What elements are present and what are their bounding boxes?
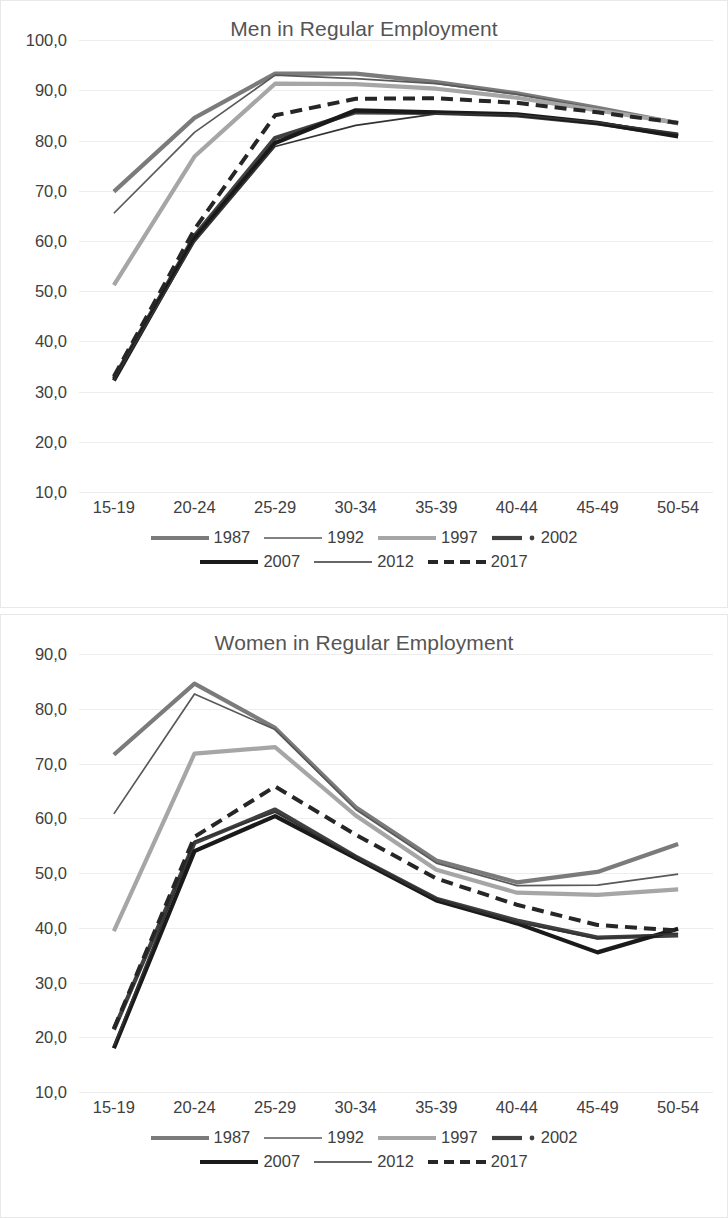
legend-label: 2007 (263, 1152, 300, 1171)
plot-wrapper-women: 10,020,030,040,050,060,070,080,090,0 (1, 654, 727, 1092)
y-axis-tick-label: 80,0 (35, 699, 67, 718)
x-axis-tick-label: 35-39 (415, 498, 457, 517)
series-line-1987 (114, 684, 678, 883)
legend-item-2012[interactable]: 2012 (314, 1152, 414, 1171)
legend-swatch-icon (151, 1130, 209, 1146)
y-axis-tick-label: 50,0 (35, 864, 67, 883)
x-axis-tick-label: 25-29 (254, 498, 296, 517)
x-axis-tick-label: 20-24 (173, 498, 215, 517)
legend-item-1992[interactable]: 1992 (264, 1128, 364, 1147)
legend-label: 2017 (491, 552, 528, 571)
x-axis-tick-label: 50-54 (657, 1098, 699, 1117)
legend-item-2007[interactable]: 2007 (200, 552, 300, 571)
x-axis-tick-label: 45-49 (576, 498, 618, 517)
legend-label: 2002 (541, 1128, 578, 1147)
legend-label: 2012 (377, 552, 414, 571)
x-axis-tick-label: 15-19 (93, 498, 135, 517)
legend-swatch-icon (264, 1130, 322, 1146)
y-axis-tick-label: 30,0 (35, 382, 67, 401)
legend-label: 1997 (441, 1128, 478, 1147)
x-axis-tick-label: 30-34 (335, 498, 377, 517)
y-axis-tick-label: 70,0 (35, 754, 67, 773)
y-axis-tick-label: 20,0 (35, 1028, 67, 1047)
y-axis-tick-label: 100,0 (26, 31, 67, 50)
y-axis-tick-label: 40,0 (35, 918, 67, 937)
legend-item-2017[interactable]: 2017 (428, 552, 528, 571)
legend-item-1997[interactable]: 1997 (378, 528, 478, 547)
y-axis-tick-label: 60,0 (35, 809, 67, 828)
series-line-2017 (114, 787, 678, 1029)
legend-swatch-icon (314, 554, 372, 570)
legend-swatch-icon (428, 1154, 486, 1170)
legend-item-2017[interactable]: 2017 (428, 1152, 528, 1171)
legend-row: 1987199219972002 (144, 1128, 585, 1147)
x-axis-tick-label: 15-19 (93, 1098, 135, 1117)
legend-label: 2012 (377, 1152, 414, 1171)
y-axis-tick-label: 20,0 (35, 432, 67, 451)
y-axis-women: 10,020,030,040,050,060,070,080,090,0 (1, 654, 75, 1092)
legend-swatch-icon (378, 530, 436, 546)
legend-label: 1987 (214, 528, 251, 547)
legend-item-2012[interactable]: 2012 (314, 552, 414, 571)
legend-item-2002[interactable]: 2002 (492, 528, 578, 547)
legend-men: 1987199219972002200720122017 (1, 528, 727, 571)
legend-item-1992[interactable]: 1992 (264, 528, 364, 547)
x-axis-women: 15-1920-2425-2930-3435-3940-4445-4950-54 (79, 1092, 713, 1126)
legend-swatch-icon (151, 530, 209, 546)
y-axis-tick-label: 60,0 (35, 231, 67, 250)
legend-swatch-icon (200, 1154, 258, 1170)
y-axis-men: 10,020,030,040,050,060,070,080,090,0100,… (1, 40, 75, 492)
y-axis-tick-label: 10,0 (35, 1083, 67, 1102)
legend-label: 1987 (214, 1128, 251, 1147)
legend-swatch-icon (428, 554, 486, 570)
x-axis-tick-label: 25-29 (254, 1098, 296, 1117)
legend-item-2002[interactable]: 2002 (492, 1128, 578, 1147)
legend-swatch-icon (492, 1130, 536, 1146)
legend-swatch-icon (200, 554, 258, 570)
x-axis-tick-label: 40-44 (496, 1098, 538, 1117)
legend-item-1987[interactable]: 1987 (151, 528, 251, 547)
y-axis-tick-label: 90,0 (35, 81, 67, 100)
legend-item-1997[interactable]: 1997 (378, 1128, 478, 1147)
x-axis-tick-label: 20-24 (173, 1098, 215, 1117)
y-axis-tick-label: 40,0 (35, 332, 67, 351)
legend-swatch-icon (314, 1154, 372, 1170)
legend-swatch-icon (264, 530, 322, 546)
x-axis-tick-label: 40-44 (496, 498, 538, 517)
legend-label: 2017 (491, 1152, 528, 1171)
x-axis-men: 15-1920-2425-2930-3435-3940-4445-4950-54 (79, 492, 713, 526)
legend-row: 200720122017 (193, 1152, 534, 1171)
legend-swatch-icon (378, 1130, 436, 1146)
line-series-men (79, 40, 713, 492)
x-axis-tick-label: 30-34 (335, 1098, 377, 1117)
series-line-2007 (114, 816, 678, 1048)
legend-label: 1992 (327, 1128, 364, 1147)
x-axis-tick-label: 45-49 (576, 1098, 618, 1117)
plot-area-men (79, 40, 713, 492)
legend-label: 2007 (263, 552, 300, 571)
legend-label: 1992 (327, 528, 364, 547)
chart-title-men: Men in Regular Employment (1, 1, 727, 40)
legend-row: 200720122017 (193, 552, 534, 571)
legend-row: 1987199219972002 (144, 528, 585, 547)
plot-wrapper-men: 10,020,030,040,050,060,070,080,090,0100,… (1, 40, 727, 492)
chart-title-women: Women in Regular Employment (1, 615, 727, 654)
y-axis-tick-label: 50,0 (35, 282, 67, 301)
y-axis-tick-label: 70,0 (35, 181, 67, 200)
y-axis-tick-label: 30,0 (35, 973, 67, 992)
plot-area-women (79, 654, 713, 1092)
legend-women: 1987199219972002200720122017 (1, 1128, 727, 1171)
series-line-1992 (114, 75, 678, 213)
y-axis-tick-label: 90,0 (35, 645, 67, 664)
legend-item-1987[interactable]: 1987 (151, 1128, 251, 1147)
legend-label: 2002 (541, 528, 578, 547)
line-series-women (79, 654, 713, 1092)
series-line-1987 (114, 74, 678, 192)
y-axis-tick-label: 10,0 (35, 483, 67, 502)
x-axis-tick-label: 50-54 (657, 498, 699, 517)
chart-panel-men: Men in Regular Employment 10,020,030,040… (0, 0, 728, 608)
legend-swatch-icon (492, 530, 536, 546)
legend-label: 1997 (441, 528, 478, 547)
legend-item-2007[interactable]: 2007 (200, 1152, 300, 1171)
x-axis-tick-label: 35-39 (415, 1098, 457, 1117)
